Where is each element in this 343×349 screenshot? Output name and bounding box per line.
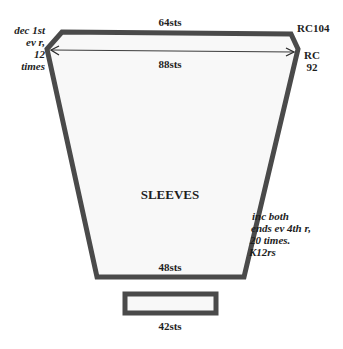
upper-width-label: 88sts	[140, 58, 200, 70]
top-width-label: 64sts	[140, 16, 200, 28]
decrease-note: dec 1st ev r, 12 times	[0, 24, 45, 72]
bottom-width-label: 48sts	[140, 261, 200, 273]
cuff-width-label: 42sts	[140, 320, 200, 332]
row-count-shoulder-label: RC 92	[300, 49, 324, 73]
sleeve-diagram	[0, 0, 343, 349]
cuff-rectangle	[125, 294, 216, 313]
row-count-top-label: RC104	[297, 22, 329, 34]
increase-note: inc both ends ev 4th r, 20 times. K12rs	[252, 210, 311, 258]
diagram-title: SLEEVES	[120, 189, 220, 201]
